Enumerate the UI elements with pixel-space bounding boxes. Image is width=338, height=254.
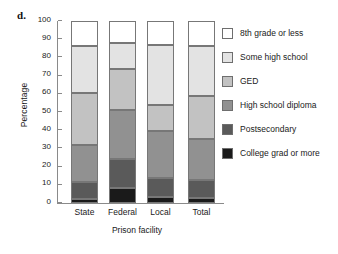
y-axis-tick-label: 30 — [42, 142, 51, 152]
y-axis-tick: 10 — [57, 184, 62, 185]
y-axis-tick-mark — [58, 56, 62, 57]
legend-swatch — [222, 124, 233, 135]
bar-segment[interactable] — [147, 105, 174, 131]
y-axis-tick: 90 — [57, 38, 62, 39]
y-axis-tick: 0 — [57, 202, 62, 203]
bar-segment[interactable] — [188, 180, 215, 198]
y-axis-tick: 100 — [57, 20, 62, 21]
y-axis-tick-mark — [58, 147, 62, 148]
figure: d. Percentage 0102030405060708090100 Sta… — [0, 0, 338, 254]
y-axis-tick-label: 70 — [42, 69, 51, 79]
y-axis-tick-label: 100 — [38, 15, 51, 25]
bar-segment[interactable] — [71, 93, 98, 145]
y-axis-tick: 40 — [57, 129, 62, 130]
bar-segment[interactable] — [109, 110, 136, 159]
y-axis-tick-label: 10 — [42, 178, 51, 188]
y-axis-tick-label: 80 — [42, 51, 51, 61]
y-axis-tick-label: 20 — [42, 160, 51, 170]
y-axis-tick: 60 — [57, 93, 62, 94]
bar-segment[interactable] — [71, 46, 98, 92]
y-axis-tick-mark — [58, 111, 62, 112]
y-axis-tick-mark — [58, 75, 62, 76]
bar-segment[interactable] — [109, 21, 136, 43]
legend-label: Postsecondary — [240, 124, 296, 134]
bar-segment[interactable] — [71, 199, 98, 203]
y-axis-tick-label: 90 — [42, 33, 51, 43]
legend-label: Some high school — [240, 52, 308, 62]
bar-segment[interactable] — [188, 96, 215, 140]
bar-segment[interactable] — [188, 198, 215, 203]
y-axis-tick-mark — [58, 166, 62, 167]
legend-item[interactable]: High school diploma — [222, 93, 338, 117]
y-axis-tick-mark — [58, 93, 62, 94]
y-axis-tick: 50 — [57, 111, 62, 112]
y-axis-tick-label: 50 — [42, 106, 51, 116]
x-axis-title: Prison facility — [57, 225, 217, 235]
bar-segment[interactable] — [188, 46, 215, 96]
y-axis-tick: 20 — [57, 166, 62, 167]
legend-swatch — [222, 76, 233, 87]
y-axis-tick-mark — [58, 129, 62, 130]
bar-segment[interactable] — [109, 188, 136, 203]
bar-segment[interactable] — [109, 159, 136, 188]
y-axis-tick: 80 — [57, 56, 62, 57]
y-axis-tick: 70 — [57, 75, 62, 76]
y-axis-title: Percentage — [19, 60, 29, 150]
legend-label: College grad or more — [240, 148, 320, 158]
y-axis-tick-mark — [58, 202, 62, 203]
legend-swatch — [222, 100, 233, 111]
legend-label: GED — [240, 76, 258, 86]
legend-item[interactable]: 8th grade or less — [222, 21, 338, 45]
stacked-bar[interactable] — [71, 21, 98, 203]
bar-segment[interactable] — [109, 69, 136, 110]
legend: 8th grade or lessSome high schoolGEDHigh… — [222, 21, 338, 165]
bar-segment[interactable] — [71, 21, 98, 46]
bar-segment[interactable] — [71, 145, 98, 182]
x-axis-line — [57, 203, 224, 204]
legend-swatch — [222, 148, 233, 159]
legend-label: 8th grade or less — [240, 28, 303, 38]
y-axis-tick-mark — [58, 38, 62, 39]
bar-segment[interactable] — [188, 139, 215, 180]
y-axis-tick-label: 60 — [42, 87, 51, 97]
legend-swatch — [222, 52, 233, 63]
legend-item[interactable]: Postsecondary — [222, 117, 338, 141]
bar-segment[interactable] — [71, 182, 98, 199]
plot-area: 0102030405060708090100 StateFederalLocal… — [57, 21, 217, 204]
y-axis-tick-mark — [58, 20, 62, 21]
legend-label: High school diploma — [240, 100, 317, 110]
stacked-bar[interactable] — [188, 21, 215, 203]
y-axis-tick-label: 40 — [42, 124, 51, 134]
stacked-bar[interactable] — [147, 21, 174, 203]
bar-segment[interactable] — [147, 21, 174, 45]
bar-segment[interactable] — [147, 178, 174, 197]
bar-segment[interactable] — [147, 131, 174, 178]
bar-segment[interactable] — [188, 21, 215, 46]
legend-swatch — [222, 28, 233, 39]
stacked-bar[interactable] — [109, 21, 136, 203]
bar-segment[interactable] — [109, 43, 136, 69]
bar-segment[interactable] — [147, 197, 174, 203]
x-axis-tick-label: Total — [172, 207, 232, 217]
panel-letter: d. — [17, 9, 26, 21]
y-axis-line — [57, 21, 58, 204]
legend-item[interactable]: College grad or more — [222, 141, 338, 165]
legend-item[interactable]: Some high school — [222, 45, 338, 69]
y-axis-tick-mark — [58, 184, 62, 185]
bar-segment[interactable] — [147, 45, 174, 106]
y-axis-tick: 30 — [57, 147, 62, 148]
y-axis-tick-label: 0 — [47, 197, 51, 207]
legend-item[interactable]: GED — [222, 69, 338, 93]
